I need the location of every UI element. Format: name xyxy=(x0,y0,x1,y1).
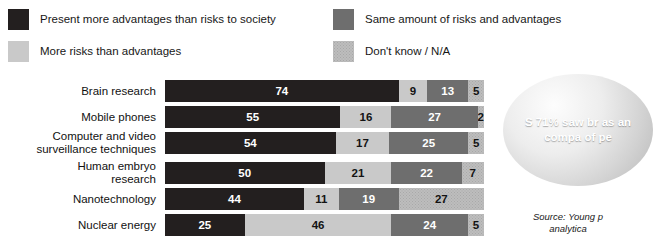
chart-bar-segment: 7 xyxy=(462,162,484,184)
chart-row-label: Computer and video surveillance techniqu… xyxy=(0,130,156,155)
chart-row: Human embryo research5021227 xyxy=(0,162,581,184)
chart-row-label: Nanotechnology xyxy=(0,193,156,206)
chart-bar-segment: 5 xyxy=(468,80,484,102)
mid-gray-swatch-icon xyxy=(333,9,354,30)
chart-bar-segment: 24 xyxy=(391,214,468,236)
chart-row: Mobile phones5516272 xyxy=(0,106,581,128)
chart-bar-segment: 9 xyxy=(399,80,427,102)
source-note: Source: Young p analytica xyxy=(498,211,638,234)
chart-bar: 2546245 xyxy=(165,214,484,236)
chart-row: Nanotechnology44111927 xyxy=(0,188,581,210)
legend-label: Same amount of risks and advantages xyxy=(365,13,561,26)
chart-bar: 5417255 xyxy=(165,132,484,154)
callout-text: S 71% saw br as an compa of pe xyxy=(512,115,644,145)
chart-row-label: Nuclear energy xyxy=(0,219,156,232)
chart-bar-segment: 27 xyxy=(391,106,477,128)
callout-bubble: S 71% saw br as an compa of pe xyxy=(503,74,653,186)
chart-row: Brain research749135 xyxy=(0,80,581,102)
chart-legend: Present more advantages than risks to so… xyxy=(0,0,581,66)
chart-bar-segment: 54 xyxy=(165,132,336,154)
chart-bar-segment: 13 xyxy=(427,80,468,102)
legend-label: Don't know / N/A xyxy=(365,45,450,58)
chart-bar-segment: 16 xyxy=(340,106,391,128)
chart-bar-segment: 22 xyxy=(391,162,461,184)
legend-label: More risks than advantages xyxy=(40,45,181,58)
light-gray-swatch-icon xyxy=(8,41,29,62)
chart-row-label: Mobile phones xyxy=(0,111,156,124)
chart-bar-segment: 2 xyxy=(478,106,484,128)
chart-row-label: Brain research xyxy=(0,85,156,98)
chart-bar-segment: 17 xyxy=(336,132,390,154)
stacked-bar-chart: Brain research749135Mobile phones5516272… xyxy=(0,66,581,248)
chart-bar-segment: 44 xyxy=(165,188,304,210)
chart-bar-segment: 27 xyxy=(399,188,484,210)
chart-bar-segment: 55 xyxy=(165,106,340,128)
legend-item-same-amount: Same amount of risks and advantages xyxy=(333,9,561,30)
chart-bar-segment: 25 xyxy=(389,132,468,154)
chart-bar-segment: 5 xyxy=(468,132,484,154)
chart-row: Computer and video surveillance techniqu… xyxy=(0,132,581,154)
legend-item-dont-know: Don't know / N/A xyxy=(333,41,450,62)
chart-bar-segment: 19 xyxy=(339,188,399,210)
legend-item-more-risks: More risks than advantages xyxy=(8,41,181,62)
legend-label: Present more advantages than risks to so… xyxy=(40,13,276,26)
chart-bar-segment: 50 xyxy=(165,162,325,184)
chart-bar-segment: 5 xyxy=(468,214,484,236)
chart-bar-segment: 25 xyxy=(165,214,245,236)
chart-bar-segment: 74 xyxy=(165,80,399,102)
chart-bar-segment: 11 xyxy=(304,188,339,210)
chart-bar: 5516272 xyxy=(165,106,484,128)
chart-bar-segment: 46 xyxy=(245,214,392,236)
chart-bar: 5021227 xyxy=(165,162,484,184)
dark-swatch-icon xyxy=(8,9,29,30)
chart-row: Nuclear energy2546245 xyxy=(0,214,581,236)
chart-bar: 749135 xyxy=(165,80,484,102)
chart-row-label: Human embryo research xyxy=(0,160,156,185)
dotted-gray-swatch-icon xyxy=(333,41,354,62)
chart-bar-segment: 21 xyxy=(325,162,392,184)
chart-bar: 44111927 xyxy=(165,188,484,210)
legend-item-present-more-advantages: Present more advantages than risks to so… xyxy=(8,9,276,30)
